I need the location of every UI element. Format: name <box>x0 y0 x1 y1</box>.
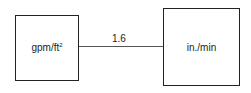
node-label: in./min <box>187 42 216 53</box>
conversion-factor: 1.6 <box>112 33 126 44</box>
node-gpm-per-ft2: gpm/ft2 <box>15 15 79 81</box>
connector-line <box>79 46 163 47</box>
superscript: 2 <box>59 42 62 48</box>
node-label: gpm/ft2 <box>31 42 62 53</box>
unit-text: gpm/ft <box>31 43 59 54</box>
node-in-per-min: in./min <box>163 8 240 86</box>
